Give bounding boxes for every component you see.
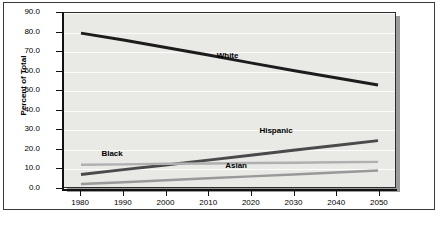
x-axis-line	[62, 189, 397, 191]
y-axis-tick	[56, 168, 62, 169]
series-line-asian	[81, 171, 378, 185]
y-axis-tick	[56, 129, 62, 130]
x-axis-tick	[80, 191, 81, 196]
series-label-hispanic: Hispanic	[259, 126, 292, 135]
y-axis-tick	[56, 71, 62, 72]
x-axis-tick-label: 2030	[274, 198, 314, 207]
y-axis-tick-label: 10.0	[0, 164, 40, 172]
x-axis-tick	[251, 191, 252, 196]
x-axis-tick	[379, 191, 380, 196]
y-axis-title: Percent of Total	[19, 41, 28, 131]
y-axis-tick	[56, 110, 62, 111]
y-axis-tick	[56, 149, 62, 150]
y-axis-tick	[56, 12, 62, 13]
series-label-black: Black	[101, 149, 122, 158]
x-axis-tick	[123, 191, 124, 196]
y-axis-tick-label: 20.0	[0, 145, 40, 153]
x-axis-tick	[208, 191, 209, 196]
y-axis-tick-label: 80.0	[0, 28, 40, 36]
x-axis-tick-label: 1980	[60, 198, 100, 207]
y-axis-tick	[56, 32, 62, 33]
x-axis-tick-label: 2010	[188, 198, 228, 207]
y-axis-line	[62, 12, 64, 189]
x-axis-tick-label: 1990	[103, 198, 143, 207]
y-axis-tick	[56, 188, 62, 189]
series-label-asian: Asian	[225, 161, 247, 170]
x-axis-tick-label: 2040	[316, 198, 356, 207]
x-axis-tick-label: 2020	[231, 198, 271, 207]
x-axis-tick	[166, 191, 167, 196]
x-axis-tick	[336, 191, 337, 196]
chart-figure-frame: 0.010.020.030.040.050.060.070.080.090.0 …	[3, 2, 435, 210]
y-axis-tick-label: 0.0	[0, 184, 40, 192]
x-axis-tick-label: 2050	[359, 198, 399, 207]
x-axis-tick	[294, 191, 295, 196]
series-label-white: White	[217, 51, 239, 60]
y-axis-tick	[56, 51, 62, 52]
x-axis-tick-label: 2000	[146, 198, 186, 207]
y-axis-tick	[56, 90, 62, 91]
y-axis-tick-label: 90.0	[0, 8, 40, 16]
